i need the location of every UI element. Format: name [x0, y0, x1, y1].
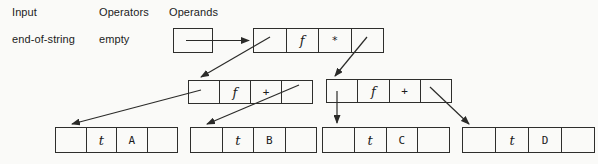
operators-state-label: empty: [99, 33, 129, 45]
input-state-label: end-of-string: [12, 33, 75, 45]
node-root-left-pointer-cell: [254, 29, 287, 52]
leaf-b-operand-cell: B: [254, 128, 286, 152]
leaf-a-pointer-cell: [56, 128, 87, 152]
node-left-left-pointer-cell: [189, 81, 220, 103]
node-left-right-pointer-cell: [282, 81, 312, 103]
leaf-c-tag-cell: t: [355, 128, 387, 152]
leaf-d-empty-cell: [562, 128, 594, 152]
node-left-operator-cell: +: [251, 81, 282, 103]
column-header-operators: Operators: [99, 6, 149, 18]
node-left-tag-cell: f: [220, 81, 251, 103]
leaf-node-d: t D: [462, 127, 595, 153]
leaf-c-operand-cell: C: [387, 128, 419, 152]
column-header-input: Input: [12, 6, 37, 18]
node-root-tag-cell: f: [287, 29, 320, 52]
node-right-left-pointer-cell: [327, 80, 358, 102]
node-root-operator-cell: *: [319, 29, 352, 52]
operand-stack-pointer-box: [173, 28, 213, 53]
leaf-node-b: t B: [190, 127, 317, 153]
node-right-operator-cell: +: [390, 80, 421, 102]
leaf-c-empty-cell: [418, 128, 449, 152]
leaf-d-tag-cell: t: [496, 128, 529, 152]
leaf-node-a: t A: [55, 127, 178, 153]
node-right-child: f +: [326, 79, 452, 103]
leaf-b-empty-cell: [286, 128, 317, 152]
node-left-child: f +: [188, 80, 313, 104]
leaf-b-pointer-cell: [191, 128, 223, 152]
node-root-right-pointer-cell: [352, 29, 384, 52]
column-header-operands: Operands: [169, 6, 218, 18]
leaf-a-empty-cell: [148, 128, 178, 152]
node-right-tag-cell: f: [358, 80, 389, 102]
leaf-a-operand-cell: A: [117, 128, 148, 152]
leaf-d-operand-cell: D: [529, 128, 562, 152]
leaf-c-pointer-cell: [323, 128, 355, 152]
node-root: f *: [253, 28, 384, 53]
expression-tree-diagram: Input Operators Operands end-of-string e…: [0, 0, 598, 164]
leaf-node-c: t C: [322, 127, 450, 153]
leaf-d-pointer-cell: [463, 128, 496, 152]
leaf-a-tag-cell: t: [87, 128, 118, 152]
arrow-left-child-to-leaf-a: [72, 90, 201, 124]
leaf-b-tag-cell: t: [223, 128, 255, 152]
node-right-right-pointer-cell: [421, 80, 451, 102]
